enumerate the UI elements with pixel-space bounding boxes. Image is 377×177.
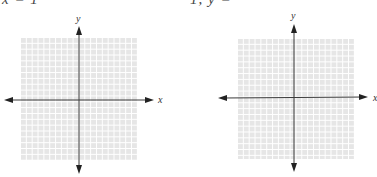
coordinate-plane-right: x y	[187, 0, 374, 177]
coordinate-plane-left: x y	[0, 0, 187, 177]
y-axis-label: y	[291, 11, 295, 21]
arrow-left-icon	[218, 95, 227, 101]
x-axis-label: x	[373, 93, 377, 103]
y-axis-label: y	[76, 14, 80, 24]
arrow-right-icon	[359, 94, 368, 100]
arrow-up-icon	[291, 24, 297, 33]
arrow-down-icon	[76, 165, 82, 174]
arrow-up-icon	[76, 26, 82, 35]
arrow-left-icon	[4, 97, 13, 103]
x-axis-label: x	[158, 95, 162, 105]
arrow-right-icon	[145, 97, 154, 103]
axes-left	[0, 0, 187, 177]
arrow-down-icon	[291, 163, 297, 172]
axes-right	[187, 0, 375, 177]
